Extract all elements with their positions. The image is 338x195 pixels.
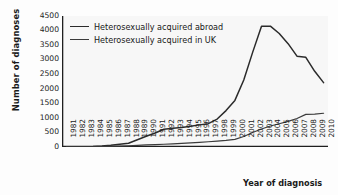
x-axis-tick-label: 1990: [149, 119, 158, 149]
x-axis-tick-label: 1985: [105, 119, 114, 149]
legend-item-abroad: Heterosexually acquired abroad: [70, 20, 250, 33]
x-axis-tick-label: 1986: [114, 119, 123, 149]
x-axis-tick-label: 2000: [238, 119, 247, 149]
x-axis-tick-label: 2009: [318, 119, 327, 149]
x-axis-tick-label: 2001: [247, 119, 256, 149]
chart-figure: Number of diagnoses 45004000350030002500…: [0, 0, 338, 195]
x-axis-tick-label: 1998: [220, 119, 229, 149]
x-axis-tick-label: 1991: [158, 119, 167, 149]
legend-label-abroad: Heterosexually acquired abroad: [94, 22, 223, 32]
x-axis-tick-label: 1989: [140, 119, 149, 149]
x-axis-tick-label: 1984: [96, 119, 105, 149]
x-axis-tick-label: 1999: [229, 119, 238, 149]
x-axis-tick-label: 2002: [256, 119, 265, 149]
x-axis-tick-label: 2008: [309, 119, 318, 149]
chart-legend: Heterosexually acquired abroad Heterosex…: [70, 20, 250, 46]
x-axis-tick-label: 1983: [87, 119, 96, 149]
x-axis-title: Year of diagnosis: [243, 178, 322, 188]
x-axis-tick-label: 2010: [327, 119, 336, 149]
legend-label-uk: Heterosexually acquired in UK: [94, 35, 216, 45]
x-axis-tick-label: 1992: [167, 119, 176, 149]
x-axis-tick-label: 1987: [123, 119, 132, 149]
legend-line-swatch-uk: [70, 39, 89, 40]
x-axis-tick-label: 1994: [185, 119, 194, 149]
x-axis-tick-label: 2006: [291, 119, 300, 149]
x-axis-tick-label: 1997: [211, 119, 220, 149]
x-axis-tick-label: 2004: [273, 119, 282, 149]
x-axis-tick-label: 1982: [78, 119, 87, 149]
legend-line-swatch-abroad: [70, 26, 89, 27]
x-axis-tick-label: 2007: [300, 119, 309, 149]
x-axis-tick-label: 1993: [176, 119, 185, 149]
legend-item-uk: Heterosexually acquired in UK: [70, 33, 250, 46]
x-axis-tick-label: 2005: [282, 119, 291, 149]
